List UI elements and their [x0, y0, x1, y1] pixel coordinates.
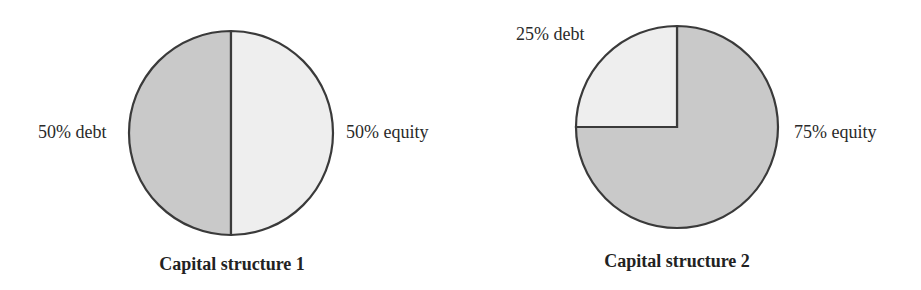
pie2-caption: Capital structure 2 [604, 251, 750, 271]
pie1-equity-label: 50% equity [346, 122, 429, 142]
pie-charts-canvas [0, 0, 921, 290]
pie-chart-2 [576, 26, 778, 228]
pie2-debt-label: 25% debt [516, 24, 584, 44]
pie1-debt-slice [129, 31, 231, 235]
pie-chart-1 [129, 31, 333, 235]
pie1-caption: Capital structure 1 [159, 254, 305, 274]
capital-structure-figure: 50% debt 50% equity Capital structure 1 … [0, 0, 921, 290]
pie1-debt-label: 50% debt [38, 122, 106, 142]
pie1-equity-slice [231, 31, 333, 235]
pie2-equity-label: 75% equity [794, 122, 877, 142]
pie2-debt-slice [576, 26, 677, 127]
